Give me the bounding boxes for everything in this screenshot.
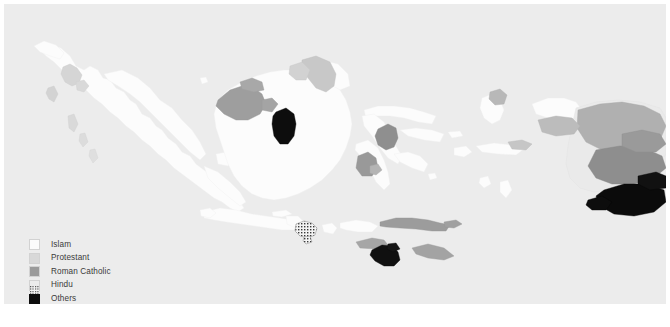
legend-label-hindu: Hindu	[51, 281, 73, 289]
buru-island	[454, 146, 472, 157]
region-java	[200, 208, 304, 230]
sulawesi-east-arm	[400, 128, 444, 142]
sula-islands	[448, 131, 463, 138]
legend-item-roman-catholic[interactable]: Roman Catholic	[29, 265, 179, 279]
legend-label-roman-catholic: Roman Catholic	[51, 268, 111, 276]
bali-south-peninsula	[303, 236, 312, 244]
map-figure: Islam Protestant Roman Catholic Hindu	[0, 0, 670, 327]
map-legend: Islam Protestant Roman Catholic Hindu	[29, 238, 179, 304]
mentawai-pagai-protestant	[89, 149, 98, 163]
legend-swatch-hindu	[29, 280, 40, 291]
legend-label-islam: Islam	[51, 241, 71, 249]
sumbawa-island	[340, 220, 378, 232]
legend-swatch-protestant	[29, 253, 40, 264]
legend-label-others: Others	[51, 295, 76, 303]
legend-item-others[interactable]: Others	[29, 292, 179, 304]
seram-protestant-pocket	[508, 140, 532, 150]
map-canvas: Islam Protestant Roman Catholic Hindu	[4, 4, 666, 304]
legend-swatch-roman-catholic	[29, 266, 40, 277]
legend-item-islam[interactable]: Islam	[29, 238, 179, 252]
legend-item-hindu[interactable]: Hindu	[29, 279, 179, 293]
legend-swatch-others	[29, 294, 40, 304]
natuna-islands	[200, 77, 208, 84]
mentawai-siberut-protestant	[68, 114, 78, 132]
timor-west-catholic	[412, 244, 454, 260]
wakatobi-islands	[428, 173, 437, 180]
legend-label-protestant: Protestant	[51, 254, 89, 262]
mentawai-sipora-protestant	[79, 133, 88, 147]
kai-islands	[479, 176, 491, 188]
lombok-island	[322, 223, 337, 234]
legend-item-protestant[interactable]: Protestant	[29, 252, 179, 266]
region-nusa-tenggara	[322, 220, 378, 234]
alor-lembata-catholic	[444, 220, 462, 228]
aru-tanimbar-islands	[500, 180, 512, 198]
legend-swatch-islam	[29, 239, 40, 250]
bali-island	[295, 221, 317, 238]
flores-island-catholic	[380, 218, 450, 231]
nias-island-protestant	[46, 86, 58, 102]
bali-hindu	[295, 221, 317, 244]
